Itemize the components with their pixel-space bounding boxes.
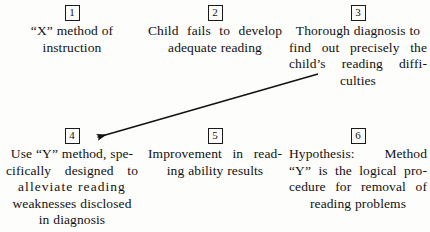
diagram-node-3: 3 Thorough diagnosis to find out precise… (286, 5, 430, 89)
node-text-line: culties (289, 73, 427, 90)
node-number-badge-6: 6 (351, 128, 366, 144)
diagram-node-5: 5 Improvement in read- ing ability resul… (144, 128, 286, 179)
node-text-line: Thorough diagnosis to (289, 23, 427, 40)
node-text-4: Use “Y” method, spe- cifically designed … (6, 146, 138, 229)
diagram-row-top: 1 “X” method of instruction 2 Child fail… (0, 5, 430, 89)
node-text-line: alleviate reading (6, 179, 138, 196)
diagram-row-bottom: 4 Use “Y” method, spe- cifically designe… (0, 128, 430, 229)
node-text-line: in diagnosis (6, 212, 138, 229)
node-text-1: “X” method of instruction (6, 23, 138, 56)
node-text-line: Child fails to develop (148, 23, 282, 40)
node-text-line: “X” method of (6, 23, 138, 40)
node-number-badge-5: 5 (208, 128, 223, 144)
diagram-node-6: 6 Hypothesis: Method “Y” is the logical … (286, 128, 430, 212)
node-text-line: child’s reading diffi- (289, 56, 427, 73)
diagram-node-4: 4 Use “Y” method, spe- cifically designe… (0, 128, 144, 229)
node-text-line: Improvement in read- (148, 146, 282, 163)
node-text-line: Use “Y” method, spe- (6, 146, 138, 163)
node-text-2: Child fails to develop adequate reading (148, 23, 282, 56)
node-number-badge-4: 4 (65, 128, 80, 144)
node-text-line: reading problems (289, 196, 427, 213)
node-text-line: “Y” is the logical pro- (289, 163, 427, 180)
node-number-badge-1: 1 (65, 5, 80, 21)
node-text-5: Improvement in read- ing ability results (148, 146, 282, 179)
diagram-node-2: 2 Child fails to develop adequate readin… (144, 5, 286, 56)
flow-diagram: 1 “X” method of instruction 2 Child fail… (0, 0, 430, 232)
node-text-line: cifically designed to (6, 163, 138, 180)
node-text-3: Thorough diagnosis to find out precisely… (289, 23, 427, 89)
node-text-line: find out precisely the (289, 40, 427, 57)
node-text-line: weaknesses disclosed (6, 196, 138, 213)
node-number-badge-2: 2 (208, 5, 223, 21)
node-text-6: Hypothesis: Method “Y” is the logical pr… (289, 146, 427, 212)
node-text-line: Hypothesis: Method (289, 146, 427, 163)
node-text-line: instruction (6, 40, 138, 57)
node-text-line: ing ability results (148, 163, 282, 180)
diagram-node-1: 1 “X” method of instruction (0, 5, 144, 56)
node-text-line: adequate reading (148, 40, 282, 57)
node-text-line: cedure for removal of (289, 179, 427, 196)
node-number-badge-3: 3 (351, 5, 366, 21)
